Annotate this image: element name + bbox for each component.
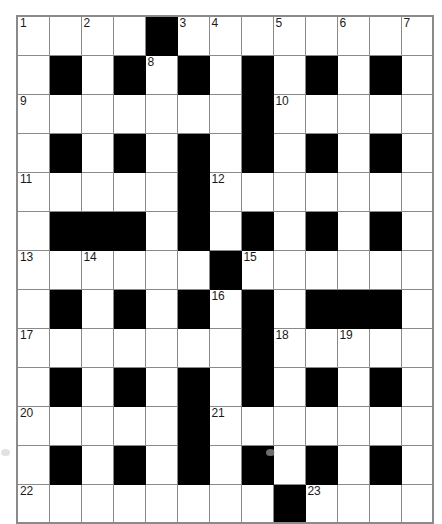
crossword-open-cell[interactable] bbox=[113, 250, 145, 289]
crossword-open-cell[interactable] bbox=[145, 289, 177, 328]
crossword-open-cell[interactable] bbox=[401, 367, 433, 406]
crossword-open-cell[interactable] bbox=[113, 328, 145, 367]
crossword-open-cell[interactable]: 1 bbox=[17, 16, 49, 55]
crossword-open-cell[interactable] bbox=[337, 406, 369, 445]
crossword-open-cell[interactable]: 7 bbox=[401, 16, 433, 55]
crossword-open-cell[interactable]: 4 bbox=[209, 16, 241, 55]
crossword-open-cell[interactable]: 5 bbox=[273, 16, 305, 55]
crossword-open-cell[interactable] bbox=[209, 445, 241, 484]
crossword-open-cell[interactable] bbox=[81, 55, 113, 94]
crossword-open-cell[interactable]: 23 bbox=[305, 484, 337, 523]
crossword-open-cell[interactable]: 13 bbox=[17, 250, 49, 289]
crossword-open-cell[interactable] bbox=[273, 133, 305, 172]
crossword-open-cell[interactable] bbox=[401, 55, 433, 94]
crossword-open-cell[interactable] bbox=[209, 133, 241, 172]
crossword-open-cell[interactable] bbox=[401, 406, 433, 445]
crossword-open-cell[interactable] bbox=[81, 172, 113, 211]
crossword-open-cell[interactable] bbox=[401, 172, 433, 211]
crossword-open-cell[interactable] bbox=[369, 16, 401, 55]
crossword-open-cell[interactable] bbox=[49, 94, 81, 133]
crossword-open-cell[interactable] bbox=[305, 250, 337, 289]
crossword-open-cell[interactable] bbox=[337, 484, 369, 523]
crossword-open-cell[interactable] bbox=[81, 406, 113, 445]
crossword-open-cell[interactable] bbox=[273, 367, 305, 406]
crossword-open-cell[interactable] bbox=[145, 328, 177, 367]
crossword-open-cell[interactable] bbox=[113, 172, 145, 211]
crossword-open-cell[interactable]: 12 bbox=[209, 172, 241, 211]
crossword-open-cell[interactable] bbox=[145, 250, 177, 289]
crossword-open-cell[interactable] bbox=[145, 94, 177, 133]
crossword-open-cell[interactable] bbox=[337, 55, 369, 94]
crossword-open-cell[interactable]: 2 bbox=[81, 16, 113, 55]
crossword-open-cell[interactable]: 9 bbox=[17, 94, 49, 133]
crossword-open-cell[interactable] bbox=[113, 16, 145, 55]
crossword-open-cell[interactable] bbox=[49, 250, 81, 289]
crossword-open-cell[interactable]: 6 bbox=[337, 16, 369, 55]
crossword-open-cell[interactable] bbox=[305, 328, 337, 367]
crossword-open-cell[interactable] bbox=[145, 367, 177, 406]
crossword-open-cell[interactable]: 18 bbox=[273, 328, 305, 367]
crossword-open-cell[interactable] bbox=[81, 484, 113, 523]
crossword-open-cell[interactable] bbox=[49, 484, 81, 523]
crossword-open-cell[interactable] bbox=[209, 94, 241, 133]
crossword-open-cell[interactable] bbox=[401, 250, 433, 289]
crossword-open-cell[interactable]: 19 bbox=[337, 328, 369, 367]
crossword-open-cell[interactable]: 20 bbox=[17, 406, 49, 445]
crossword-open-cell[interactable] bbox=[145, 133, 177, 172]
crossword-open-cell[interactable]: 8 bbox=[145, 55, 177, 94]
crossword-open-cell[interactable] bbox=[49, 328, 81, 367]
crossword-open-cell[interactable] bbox=[209, 367, 241, 406]
crossword-open-cell[interactable] bbox=[145, 172, 177, 211]
crossword-open-cell[interactable] bbox=[305, 94, 337, 133]
crossword-open-cell[interactable] bbox=[17, 133, 49, 172]
crossword-open-cell[interactable] bbox=[273, 55, 305, 94]
crossword-open-cell[interactable] bbox=[401, 289, 433, 328]
crossword-open-cell[interactable] bbox=[145, 445, 177, 484]
crossword-open-cell[interactable] bbox=[337, 250, 369, 289]
crossword-open-cell[interactable] bbox=[369, 328, 401, 367]
crossword-open-cell[interactable] bbox=[305, 172, 337, 211]
crossword-grid[interactable]: 1234567891011121314151617181920212223 bbox=[16, 15, 434, 524]
crossword-open-cell[interactable]: 17 bbox=[17, 328, 49, 367]
crossword-open-cell[interactable] bbox=[81, 367, 113, 406]
crossword-open-cell[interactable] bbox=[49, 172, 81, 211]
crossword-open-cell[interactable] bbox=[177, 250, 209, 289]
crossword-open-cell[interactable] bbox=[209, 484, 241, 523]
crossword-open-cell[interactable] bbox=[17, 289, 49, 328]
crossword-open-cell[interactable] bbox=[81, 445, 113, 484]
crossword-open-cell[interactable] bbox=[17, 445, 49, 484]
crossword-open-cell[interactable] bbox=[401, 133, 433, 172]
crossword-open-cell[interactable]: 14 bbox=[81, 250, 113, 289]
crossword-open-cell[interactable] bbox=[273, 211, 305, 250]
crossword-open-cell[interactable] bbox=[337, 445, 369, 484]
crossword-open-cell[interactable] bbox=[273, 289, 305, 328]
crossword-open-cell[interactable] bbox=[113, 94, 145, 133]
crossword-open-cell[interactable] bbox=[337, 94, 369, 133]
crossword-open-cell[interactable] bbox=[209, 328, 241, 367]
crossword-open-cell[interactable] bbox=[273, 445, 305, 484]
crossword-open-cell[interactable] bbox=[113, 484, 145, 523]
crossword-open-cell[interactable]: 11 bbox=[17, 172, 49, 211]
crossword-open-cell[interactable] bbox=[17, 367, 49, 406]
crossword-open-cell[interactable] bbox=[401, 328, 433, 367]
crossword-open-cell[interactable] bbox=[177, 484, 209, 523]
crossword-open-cell[interactable] bbox=[81, 289, 113, 328]
crossword-open-cell[interactable] bbox=[177, 94, 209, 133]
crossword-open-cell[interactable] bbox=[209, 211, 241, 250]
crossword-open-cell[interactable] bbox=[81, 94, 113, 133]
crossword-open-cell[interactable] bbox=[273, 172, 305, 211]
crossword-open-cell[interactable] bbox=[273, 406, 305, 445]
crossword-open-cell[interactable] bbox=[241, 484, 273, 523]
crossword-open-cell[interactable] bbox=[145, 484, 177, 523]
crossword-open-cell[interactable] bbox=[113, 406, 145, 445]
crossword-open-cell[interactable] bbox=[49, 406, 81, 445]
crossword-open-cell[interactable]: 3 bbox=[177, 16, 209, 55]
crossword-open-cell[interactable] bbox=[369, 406, 401, 445]
crossword-open-cell[interactable]: 15 bbox=[241, 250, 273, 289]
crossword-open-cell[interactable] bbox=[401, 94, 433, 133]
crossword-open-cell[interactable] bbox=[241, 406, 273, 445]
crossword-open-cell[interactable] bbox=[145, 406, 177, 445]
crossword-open-cell[interactable] bbox=[337, 133, 369, 172]
crossword-open-cell[interactable] bbox=[241, 172, 273, 211]
crossword-open-cell[interactable] bbox=[401, 211, 433, 250]
